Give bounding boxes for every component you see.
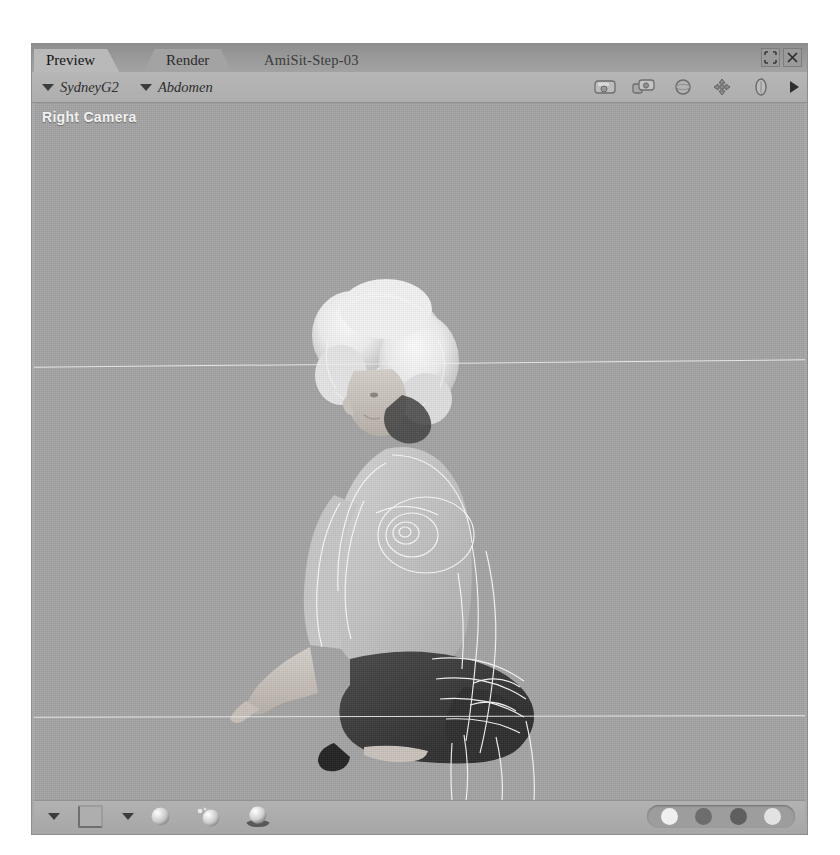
play-arrow-icon[interactable]	[787, 77, 801, 97]
mode-button-2[interactable]	[695, 808, 712, 825]
camera-flyaround-icon[interactable]	[631, 77, 657, 97]
camera-view-icon[interactable]	[592, 77, 618, 97]
display-style-dropdown[interactable]	[48, 805, 60, 828]
title-bar: Preview Render AmiSit-Step-03	[32, 44, 807, 72]
chevron-down-icon	[42, 84, 54, 91]
sphere-shadow-icon	[244, 805, 272, 828]
application-window: Preview Render AmiSit-Step-03	[32, 44, 807, 834]
dolly-camera-icon[interactable]	[748, 77, 774, 97]
render-mode-group	[647, 805, 795, 828]
close-button[interactable]	[783, 48, 802, 67]
texture-shaded-button[interactable]	[194, 805, 224, 828]
camera-label: Right Camera	[42, 109, 137, 125]
camera-toolbar	[592, 75, 801, 99]
restore-button[interactable]	[761, 48, 780, 67]
sphere-textured-icon	[194, 806, 224, 827]
mode-button-1[interactable]	[661, 808, 678, 825]
bounding-box-button[interactable]	[78, 805, 103, 828]
chevron-down-icon	[140, 84, 152, 91]
box-icon	[78, 805, 103, 828]
document-title: AmiSit-Step-03	[264, 49, 359, 72]
bottom-toolbar	[34, 800, 805, 832]
move-camera-icon[interactable]	[709, 77, 735, 97]
sphere-icon	[150, 806, 171, 827]
body-part-selector-label: Abdomen	[158, 76, 213, 98]
mode-button-3[interactable]	[730, 808, 747, 825]
window-controls	[761, 48, 802, 67]
cast-shadow-button[interactable]	[244, 805, 272, 828]
sub-toolbar: SydneyG2 Abdomen	[32, 72, 807, 103]
preview-viewport[interactable]: Right Camera	[34, 103, 805, 801]
mode-button-4[interactable]	[764, 808, 781, 825]
tab-preview[interactable]: Preview	[34, 49, 119, 72]
figure-selector[interactable]: SydneyG2	[42, 76, 119, 98]
chevron-down-icon	[48, 813, 60, 820]
chevron-down-icon	[122, 813, 134, 820]
smooth-shaded-button[interactable]	[150, 805, 171, 828]
figure-selector-label: SydneyG2	[60, 76, 119, 98]
body-part-selector[interactable]: Abdomen	[140, 76, 213, 98]
tab-render[interactable]: Render	[144, 49, 231, 72]
scene-figure	[34, 103, 805, 801]
figure-style-dropdown[interactable]	[122, 805, 134, 828]
sphere-orbit-icon[interactable]	[670, 77, 696, 97]
